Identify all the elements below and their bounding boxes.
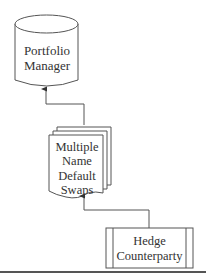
hedge-counterparty-line-2: Counterparty bbox=[113, 249, 186, 264]
swaps-line-4: Swaps bbox=[49, 183, 105, 197]
connector-hedge-to-swaps bbox=[84, 196, 149, 228]
hedge-counterparty-label: Hedge Counterparty bbox=[113, 234, 186, 264]
hedge-counterparty-line-1: Hedge bbox=[113, 234, 186, 249]
connector-swaps-to-manager bbox=[46, 89, 84, 125]
portfolio-manager-line-1: Portfolio bbox=[15, 43, 79, 58]
swaps-line-2: Name bbox=[49, 154, 105, 168]
portfolio-manager-line-2: Manager bbox=[15, 58, 79, 73]
bottom-divider bbox=[0, 271, 206, 273]
multiple-name-default-swaps-label: Multiple Name Default Swaps bbox=[49, 140, 105, 198]
swaps-line-3: Default bbox=[49, 169, 105, 183]
portfolio-manager-label: Portfolio Manager bbox=[15, 43, 79, 74]
swaps-line-1: Multiple bbox=[49, 140, 105, 154]
